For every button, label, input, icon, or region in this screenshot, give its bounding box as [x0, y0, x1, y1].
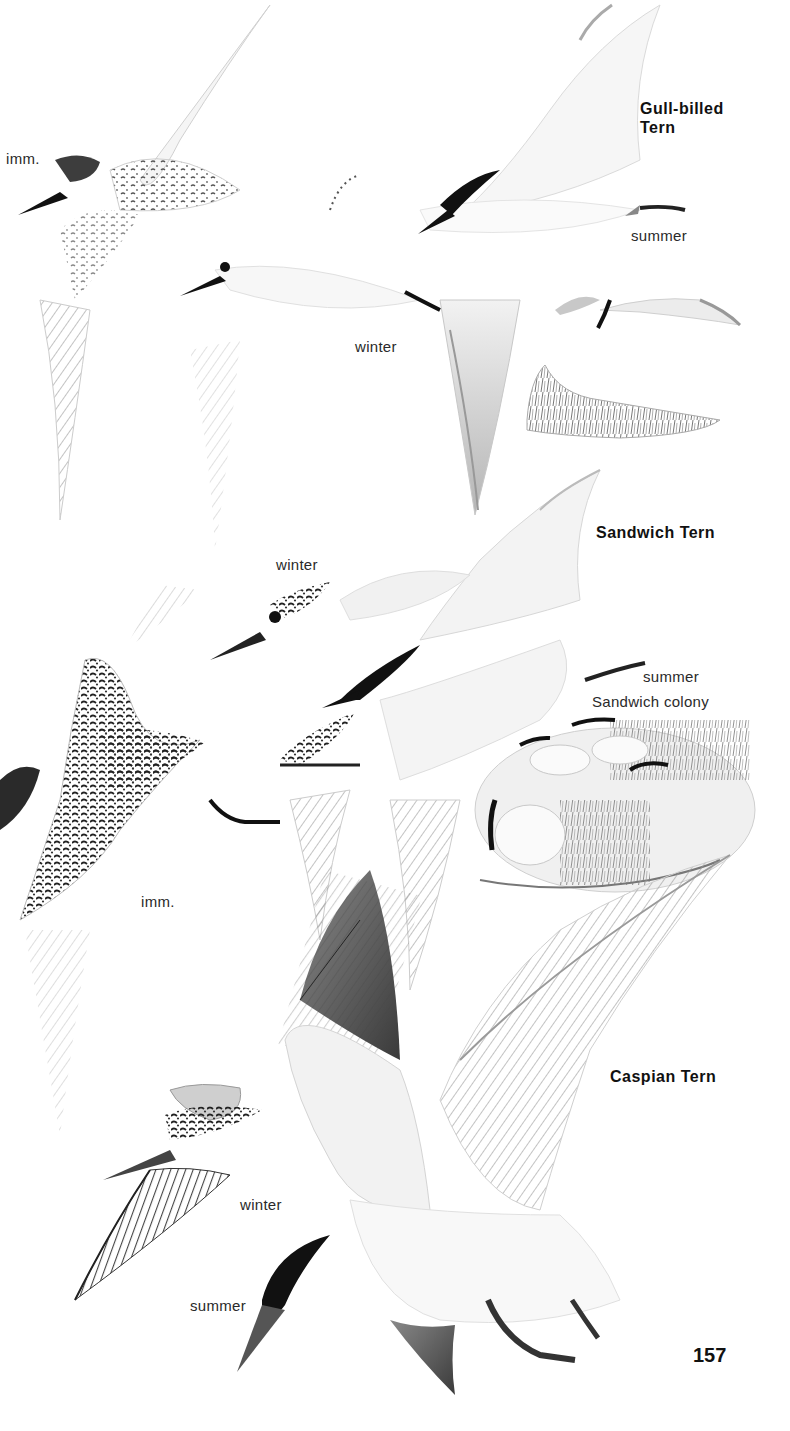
label-sandwich-winter: winter	[276, 556, 318, 573]
gull-billed-tern-winter-illustration	[180, 175, 420, 550]
label-sandwich-immature: imm.	[141, 893, 175, 910]
bird-illustrations	[0, 0, 790, 1431]
species-name-gull-billed-tern: Gull-billed Tern	[640, 99, 724, 137]
label-caspian-winter: winter	[240, 1196, 282, 1213]
field-guide-plate: Gull-billed Tern imm. summer winter Sand…	[0, 0, 790, 1431]
gull-billed-tern-immature-illustration	[18, 5, 270, 520]
sandwich-tern-winter-illustration	[125, 470, 600, 660]
label-sandwich-summer: summer	[643, 668, 699, 685]
species-name-sandwich-tern: Sandwich Tern	[596, 523, 715, 542]
gull-billed-tern-summer-illustration	[405, 5, 685, 515]
gull-billed-tern-flight-illustration	[555, 297, 740, 328]
grass-habitat-illustration	[527, 365, 720, 438]
caspian-tern-winter-illustration	[75, 1084, 262, 1300]
label-gull-billed-summer: summer	[631, 227, 687, 244]
label-caspian-summer: summer	[190, 1297, 246, 1314]
label-gull-billed-winter: winter	[355, 338, 397, 355]
page-number: 157	[693, 1344, 726, 1367]
species-name-line2: Tern	[640, 118, 724, 137]
species-name-line1: Gull-billed	[640, 99, 724, 118]
caspian-tern-summer-illustration	[237, 855, 730, 1395]
label-gull-billed-immature: imm.	[6, 150, 40, 167]
species-name-caspian-tern: Caspian Tern	[610, 1067, 716, 1086]
label-sandwich-colony: Sandwich colony	[592, 693, 709, 710]
